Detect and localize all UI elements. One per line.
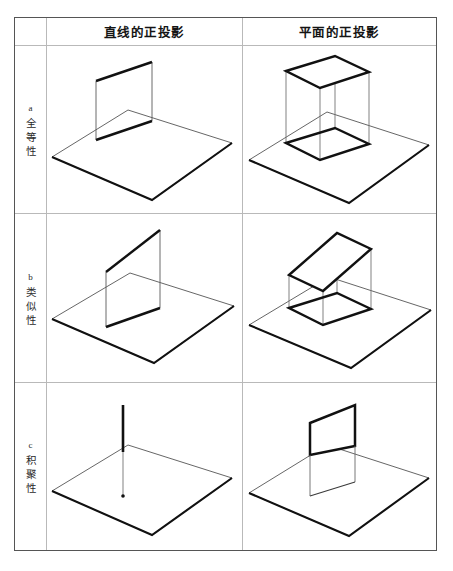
projection-plane: [249, 277, 431, 368]
projected-line: [96, 121, 152, 140]
row-a-tag: a: [15, 101, 46, 115]
accumulation-plane-diagram: [243, 383, 435, 549]
header-plane-projection: 平面的正投影: [242, 18, 436, 46]
accumulation-plane-cell: [242, 382, 436, 550]
object-line: [106, 230, 160, 272]
row-c-tag: c: [15, 438, 46, 452]
table-row: c 积 聚 性: [15, 382, 437, 550]
header-corner-cell: [15, 18, 47, 46]
row-c-char-2: 性: [15, 481, 46, 495]
row-label-b: b 类 似 性: [15, 214, 47, 382]
projected-plane: [289, 293, 371, 325]
projection-plane: [249, 112, 429, 203]
row-a-char-2: 性: [15, 144, 46, 158]
row-b-char-1: 似: [15, 299, 46, 313]
projected-line: [310, 482, 355, 496]
projected-plane: [286, 128, 369, 160]
projection-plane: [249, 445, 429, 536]
row-b-char-2: 性: [15, 313, 46, 327]
accumulation-line-cell: [47, 382, 242, 550]
row-c-char-0: 积: [15, 453, 46, 467]
page-root: 直线的正投影 平面的正投影 a 全 等 性: [0, 0, 453, 571]
row-label-c-text: c 积 聚 性: [15, 438, 46, 495]
projection-plane: [52, 273, 234, 363]
projection-properties-table: 直线的正投影 平面的正投影 a 全 等 性: [14, 17, 437, 551]
projected-point: [121, 495, 125, 499]
table-header-row: 直线的正投影 平面的正投影: [15, 18, 437, 46]
congruence-line-diagram: [48, 47, 241, 213]
row-label-c: c 积 聚 性: [15, 382, 47, 550]
header-line-projection: 直线的正投影: [47, 18, 242, 46]
table-row: a 全 等 性: [15, 46, 437, 214]
line-and-projection: [106, 230, 160, 327]
accumulation-line-diagram: [48, 383, 241, 549]
row-label-b-text: b 类 似 性: [15, 270, 46, 327]
congruence-plane-diagram: [243, 47, 435, 213]
similarity-line-diagram: [48, 215, 241, 381]
row-label-a-text: a 全 等 性: [15, 101, 46, 158]
table-row: b 类 似 性: [15, 214, 437, 382]
object-plane: [286, 56, 369, 88]
similarity-line-cell: [47, 214, 242, 382]
object-plane: [289, 233, 371, 291]
congruence-plane-cell: [242, 46, 436, 214]
row-c-char-1: 聚: [15, 467, 46, 481]
similarity-plane-cell: [242, 214, 436, 382]
clipped-top-caption: [14, 0, 314, 6]
congruence-line-cell: [47, 46, 242, 214]
projection-plane: [52, 445, 232, 535]
object-line: [96, 62, 152, 81]
projected-line: [106, 308, 160, 327]
row-a-char-0: 全: [15, 116, 46, 130]
similarity-plane-diagram: [243, 215, 435, 381]
line-and-projection: [121, 405, 125, 498]
row-label-a: a 全 等 性: [15, 46, 47, 214]
row-a-char-1: 等: [15, 130, 46, 144]
line-and-projection: [96, 62, 152, 140]
row-b-tag: b: [15, 270, 46, 284]
object-plane: [310, 405, 355, 455]
row-b-char-0: 类: [15, 285, 46, 299]
